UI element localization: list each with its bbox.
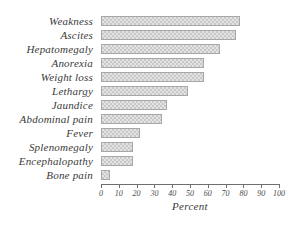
bar <box>101 114 162 124</box>
bar <box>101 30 236 40</box>
bar <box>101 128 140 138</box>
category-label: Jaundice <box>0 98 97 112</box>
bar-row <box>101 168 279 182</box>
x-axis-tick <box>243 184 244 188</box>
bar <box>101 16 240 26</box>
bar-row <box>101 126 279 140</box>
category-label: Encephalopathy <box>0 154 97 168</box>
x-axis-tick <box>226 184 227 188</box>
category-label: Weight loss <box>0 70 97 84</box>
bar <box>101 44 220 54</box>
bar <box>101 142 133 152</box>
category-label: Splenomegaly <box>0 140 97 154</box>
bar-row <box>101 42 279 56</box>
x-axis-tick <box>119 184 120 188</box>
bar <box>101 100 167 110</box>
x-axis-tick-label: 50 <box>186 189 194 198</box>
x-axis-title: Percent <box>101 200 279 212</box>
bar-row <box>101 70 279 84</box>
category-label: Anorexia <box>0 56 97 70</box>
x-axis: 0102030405060708090100 <box>101 184 279 185</box>
bar-row <box>101 28 279 42</box>
bar-row <box>101 154 279 168</box>
x-axis-tick <box>208 184 209 188</box>
bar <box>101 86 188 96</box>
x-axis-tick <box>101 184 102 188</box>
bar <box>101 72 204 82</box>
x-axis-tick-label: 0 <box>99 189 103 198</box>
bar-row <box>101 14 279 28</box>
bar <box>101 58 204 68</box>
category-label: Weakness <box>0 14 97 28</box>
bar-row <box>101 84 279 98</box>
x-axis-tick <box>172 184 173 188</box>
x-axis-tick-label: 10 <box>115 189 123 198</box>
category-label: Bone pain <box>0 168 97 182</box>
plot-area <box>101 14 279 182</box>
x-axis-tick <box>261 184 262 188</box>
category-axis-labels: WeaknessAscitesHepatomegalyAnorexiaWeigh… <box>0 14 97 182</box>
category-label: Hepatomegaly <box>0 42 97 56</box>
bar-row <box>101 140 279 154</box>
x-axis-tick-label: 60 <box>204 189 212 198</box>
bar <box>101 156 133 166</box>
x-axis-tick-label: 20 <box>133 189 141 198</box>
x-axis-tick-label: 40 <box>168 189 176 198</box>
x-axis-tick-label: 70 <box>222 189 230 198</box>
category-label: Abdominal pain <box>0 112 97 126</box>
bar-row <box>101 98 279 112</box>
category-label: Fever <box>0 126 97 140</box>
bar-row <box>101 112 279 126</box>
category-label: Lethargy <box>0 84 97 98</box>
x-axis-tick <box>137 184 138 188</box>
category-label: Ascites <box>0 28 97 42</box>
x-axis-tick-label: 100 <box>273 189 285 198</box>
bar-row <box>101 56 279 70</box>
x-axis-tick <box>279 184 280 188</box>
x-axis-tick-label: 30 <box>150 189 158 198</box>
x-axis-tick-label: 90 <box>257 189 265 198</box>
bar <box>101 170 110 180</box>
x-axis-tick <box>154 184 155 188</box>
bar-chart: WeaknessAscitesHepatomegalyAnorexiaWeigh… <box>0 0 298 225</box>
x-axis-tick-label: 80 <box>239 189 247 198</box>
x-axis-tick <box>190 184 191 188</box>
